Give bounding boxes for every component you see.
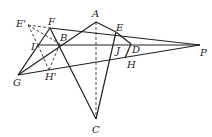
dashed-lines <box>18 22 96 119</box>
label-E-prime: E' <box>15 18 26 29</box>
dashed-segment-EpF <box>28 25 50 28</box>
label-A: A <box>91 8 99 19</box>
segment-FP <box>50 28 200 45</box>
segment-AE <box>96 22 116 32</box>
label-E: E <box>115 22 124 33</box>
segment-ED <box>116 32 131 44</box>
segment-FC <box>50 28 96 119</box>
geometry-figure: ABCDEE'FGHH'IJP <box>0 0 212 137</box>
label-B: B <box>59 32 67 43</box>
label-H: H <box>126 59 136 70</box>
label-D: D <box>131 44 140 55</box>
label-J: J <box>114 45 121 56</box>
label-C: C <box>92 124 100 135</box>
label-P: P <box>199 47 207 58</box>
segment-DH <box>125 44 131 58</box>
label-F: F <box>47 16 56 27</box>
label-G: G <box>13 77 21 88</box>
label-H-prime: H' <box>44 71 56 82</box>
segment-GA <box>18 22 96 75</box>
